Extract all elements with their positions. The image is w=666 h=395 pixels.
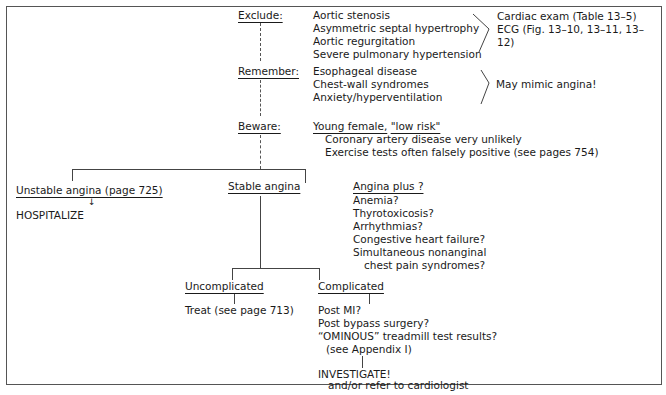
complicated-item: Post MI?	[318, 304, 361, 317]
branch-line	[72, 169, 306, 170]
branch-line	[72, 169, 73, 181]
treat-action: Treat (see page 713)	[185, 304, 294, 317]
dashed-connector	[260, 23, 261, 61]
dashed-connector	[260, 135, 261, 169]
branch-line	[305, 169, 306, 183]
branch-line	[260, 196, 261, 268]
refer-action: and/or refer to cardiologist	[328, 379, 468, 392]
remember-label: Remember:	[238, 65, 299, 78]
exclude-item: Aortic stenosis	[313, 9, 390, 22]
complicated-item: Post bypass surgery?	[318, 317, 429, 330]
beware-item: Coronary artery disease very unlikely	[325, 133, 522, 146]
angina-plus-item: chest pain syndromes?	[364, 259, 485, 272]
stable-angina-label: Stable angina	[228, 180, 300, 193]
remember-item: Anxiety/hyperventilation	[313, 91, 442, 104]
angina-plus-item: Arrhythmias?	[353, 220, 423, 233]
unstable-angina-label: Unstable angina (page 725)	[16, 184, 163, 197]
branch-line	[234, 294, 235, 304]
remember-item: Chest-wall syndromes	[313, 78, 429, 91]
uncomplicated-label: Uncomplicated	[185, 280, 264, 293]
dashed-connector	[260, 80, 261, 116]
complicated-item: (see Appendix I)	[326, 343, 412, 356]
beware-heading-part1: Young female,	[313, 120, 387, 132]
exclude-item: Severe pulmonary hypertension	[313, 48, 482, 61]
beware-heading: Young female, "low risk"	[313, 120, 440, 133]
branch-line	[369, 294, 370, 304]
exclude-result: 12)	[497, 36, 514, 49]
exclude-result: Cardiac exam (Table 13–5)	[497, 10, 637, 23]
branch-line	[232, 268, 233, 280]
exclude-result: ECG (Fig. 13–10, 13–11, 13–	[497, 23, 644, 36]
branch-line	[319, 268, 320, 280]
angina-plus-label: Angina plus ?	[353, 180, 423, 193]
angina-plus-item: Thyrotoxicosis?	[353, 207, 434, 220]
angina-plus-item: Congestive heart failure?	[353, 233, 485, 246]
complicated-label: Complicated	[318, 280, 384, 293]
branch-line	[232, 268, 320, 269]
exclude-item: Asymmetric septal hypertrophy	[313, 22, 479, 35]
branch-line	[362, 356, 363, 368]
beware-heading-part2: "low risk"	[391, 120, 441, 132]
hospitalize-action: HOSPITALIZE	[16, 209, 84, 222]
remember-item: Esophageal disease	[313, 65, 417, 78]
complicated-item: “OMINOUS” treadmill test results?	[318, 330, 497, 343]
exclude-label: Exclude:	[238, 9, 283, 22]
down-arrow-icon: ↓	[88, 197, 96, 207]
angina-plus-item: Simultaneous nonanginal	[353, 246, 486, 259]
exclude-item: Aortic regurgitation	[313, 35, 415, 48]
beware-label: Beware:	[238, 120, 281, 133]
beware-item: Exercise tests often falsely positive (s…	[325, 146, 598, 159]
angina-plus-item: Anemia?	[353, 194, 398, 207]
remember-result: May mimic angina!	[496, 78, 596, 91]
